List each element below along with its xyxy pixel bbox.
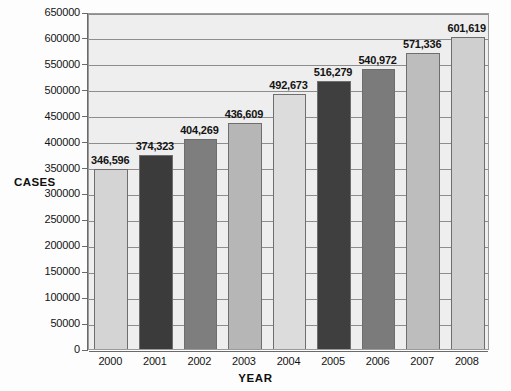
y-tick-mark <box>82 350 88 351</box>
y-tick-mark <box>82 116 88 117</box>
y-tick-mark <box>82 194 88 195</box>
x-axis-title: YEAR <box>0 372 511 384</box>
y-tick-label: 100000 <box>0 291 80 303</box>
value-label-2007: 571,336 <box>391 38 453 50</box>
bar-2004 <box>273 94 307 349</box>
y-tick-mark <box>82 298 88 299</box>
bar-2002 <box>184 139 218 349</box>
x-tick-label-2008: 2008 <box>445 355 489 367</box>
y-tick-label: 300000 <box>0 187 80 199</box>
bar-2007 <box>406 53 440 349</box>
value-label-2006: 540,972 <box>347 54 409 66</box>
x-tick-label-2006: 2006 <box>356 355 400 367</box>
bars-group <box>89 14 488 349</box>
x-tick-label-2003: 2003 <box>222 355 266 367</box>
y-tick-label: 150000 <box>0 265 80 277</box>
bar-2003 <box>228 123 262 349</box>
value-label-2002: 404,269 <box>168 124 230 136</box>
y-tick-mark <box>82 142 88 143</box>
value-label-2001: 374,323 <box>124 140 186 152</box>
value-label-2005: 516,279 <box>302 66 364 78</box>
value-label-2000: 346,596 <box>79 154 141 166</box>
y-tick-mark <box>82 272 88 273</box>
gridline <box>89 351 488 352</box>
bar-2006 <box>362 69 396 349</box>
y-axis-title: CASES <box>14 176 56 188</box>
y-tick-label: 50000 <box>0 317 80 329</box>
value-label-2004: 492,673 <box>258 79 320 91</box>
y-tick-mark <box>82 324 88 325</box>
y-tick-mark <box>82 168 88 169</box>
x-tick-label-2001: 2001 <box>133 355 177 367</box>
y-tick-label: 500000 <box>0 84 80 96</box>
y-tick-mark <box>82 220 88 221</box>
value-label-2008: 601,619 <box>436 22 498 34</box>
y-tick-label: 400000 <box>0 136 80 148</box>
y-tick-label: 550000 <box>0 58 80 70</box>
y-tick-label: 200000 <box>0 239 80 251</box>
bar-chart: 6500006000005500005000004500004000003500… <box>0 0 511 391</box>
bar-2001 <box>139 155 173 349</box>
x-tick-label-2004: 2004 <box>267 355 311 367</box>
bar-2000 <box>94 169 128 349</box>
x-tick-label-2007: 2007 <box>400 355 444 367</box>
y-tick-label: 0 <box>0 343 80 355</box>
y-tick-label: 650000 <box>0 6 80 18</box>
y-tick-label: 600000 <box>0 32 80 44</box>
y-tick-mark <box>82 38 88 39</box>
bar-2008 <box>451 37 485 349</box>
y-tick-label: 350000 <box>0 162 80 174</box>
x-tick-label-2005: 2005 <box>311 355 355 367</box>
y-tick-mark <box>82 13 88 14</box>
value-label-2003: 436,609 <box>213 108 275 120</box>
bar-2005 <box>317 81 351 349</box>
y-tick-label: 250000 <box>0 213 80 225</box>
x-tick-label-2000: 2000 <box>88 355 132 367</box>
y-tick-mark <box>82 246 88 247</box>
y-tick-label: 450000 <box>0 110 80 122</box>
x-tick-label-2002: 2002 <box>177 355 221 367</box>
y-tick-mark <box>82 90 88 91</box>
plot-area <box>88 13 489 350</box>
y-tick-mark <box>82 64 88 65</box>
